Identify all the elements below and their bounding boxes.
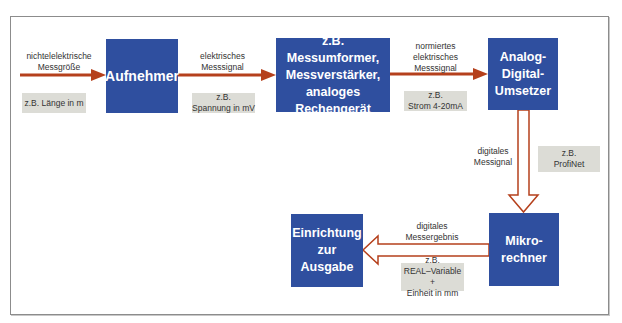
label-digital-signal: digitales Messignal [470,146,516,168]
label-input-signal: nichtelelektrische Messgröße [14,51,104,73]
block-aufnehmer: Aufnehmer [106,39,178,113]
note-strom: z.B. Strom 4-20mA [404,91,467,111]
block-analog-digital-umsetzer: Analog- Digital- Umsetzer [488,38,558,110]
label-normalized-signal: normiertes elektrisches Messsignal [398,41,473,74]
note-real-variable: z.B. REAL–Variable + Einheit in mm [401,263,464,291]
label-electrical-signal: elektrisches Messsignal [185,51,260,73]
note-profinet: z.B. ProfiNet [538,146,600,172]
label-digital-result: digitales Messergebnis [392,221,472,243]
block-ausgabe: Einrichtung zur Ausgabe [291,214,363,287]
block-messumformer: z.B. Messumformer, Messverstärker, analo… [276,38,390,112]
note-spannung: z.B. Spannung in mV [192,93,255,113]
note-laenge: z.B. Länge in m [22,93,86,113]
block-mikrorechner: Mikro- rechner [489,213,559,286]
